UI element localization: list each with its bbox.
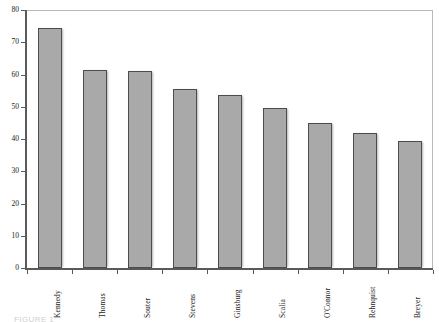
- x-tick-label: Breyer: [413, 272, 422, 318]
- x-tick-label: Kennedy: [53, 272, 62, 318]
- x-tick-mark: [27, 270, 28, 274]
- y-tick-mark: [21, 107, 25, 108]
- bar-slot: [388, 10, 433, 268]
- y-tick-label: 30: [12, 165, 20, 176]
- y-axis-tick: 80: [0, 10, 25, 11]
- y-tick-mark: [21, 268, 25, 269]
- y-tick-mark: [21, 75, 25, 76]
- y-axis: 01020304050607080: [0, 0, 25, 272]
- y-tick-mark: [21, 171, 25, 172]
- bar: [308, 123, 332, 268]
- x-tick-mark: [253, 270, 254, 274]
- x-tick-mark: [433, 270, 434, 274]
- x-tick-label: Souter: [143, 272, 152, 318]
- y-axis-tick: 0: [0, 268, 25, 269]
- y-tick-mark: [21, 10, 25, 11]
- bar-slot: [117, 10, 162, 268]
- bar: [398, 141, 422, 268]
- y-tick-label: 20: [12, 198, 20, 209]
- y-tick-mark: [21, 236, 25, 237]
- bar-slot: [27, 10, 72, 268]
- y-tick-mark: [21, 204, 25, 205]
- y-tick-label: 0: [15, 262, 19, 273]
- x-tick-label: Ginsburg: [233, 272, 242, 318]
- bar-slot: [298, 10, 343, 268]
- bar: [173, 89, 197, 268]
- x-tick-label: Stevens: [188, 272, 197, 318]
- y-axis-tick: 50: [0, 107, 25, 108]
- bar: [38, 28, 62, 268]
- x-tick-label: Rehnquist: [368, 272, 377, 318]
- bar: [83, 70, 107, 268]
- y-tick-label: 50: [12, 101, 20, 112]
- bar-slot: [162, 10, 207, 268]
- bars-area: [27, 10, 433, 268]
- y-axis-tick: 60: [0, 75, 25, 76]
- bar: [263, 108, 287, 268]
- y-axis-tick: 20: [0, 204, 25, 205]
- y-tick-mark: [21, 42, 25, 43]
- x-tick-mark: [388, 270, 389, 274]
- y-axis-tick: 40: [0, 139, 25, 140]
- x-tick-mark: [343, 270, 344, 274]
- y-tick-label: 10: [12, 230, 20, 241]
- x-tick-mark: [207, 270, 208, 274]
- bar-chart-figure: 01020304050607080 KennedyThomasSouterSte…: [0, 0, 439, 322]
- y-tick-mark: [21, 139, 25, 140]
- y-axis-tick: 30: [0, 171, 25, 172]
- figure-caption: FIGURE 1: [14, 315, 54, 322]
- x-tick-label: Thomas: [98, 272, 107, 318]
- x-axis: KennedyThomasSouterStevensGinsburgScalia…: [27, 270, 433, 322]
- y-axis-tick: 10: [0, 236, 25, 237]
- x-tick-mark: [162, 270, 163, 274]
- x-tick-mark: [72, 270, 73, 274]
- y-tick-label: 70: [12, 36, 20, 47]
- bar: [128, 71, 152, 268]
- bar-slot: [72, 10, 117, 268]
- x-tick-label: Scalia: [278, 272, 287, 318]
- x-tick-mark: [298, 270, 299, 274]
- y-axis-tick: 70: [0, 42, 25, 43]
- bar: [353, 133, 377, 268]
- y-tick-label: 80: [12, 4, 20, 15]
- bar-slot: [253, 10, 298, 268]
- bar-slot: [207, 10, 252, 268]
- bar-slot: [343, 10, 388, 268]
- x-tick-mark: [117, 270, 118, 274]
- x-tick-label: O'Connor: [323, 272, 332, 318]
- y-tick-label: 60: [12, 69, 20, 80]
- y-tick-label: 40: [12, 133, 20, 144]
- bar: [218, 95, 242, 268]
